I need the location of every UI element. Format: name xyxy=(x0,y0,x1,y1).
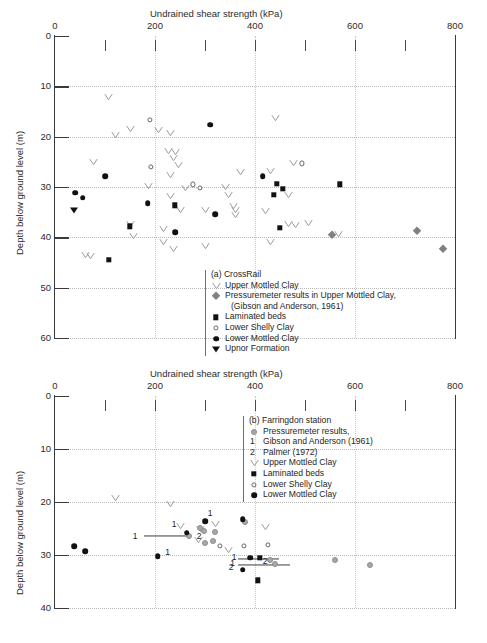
point-annotation: 1 xyxy=(133,531,138,541)
marker-vee xyxy=(224,191,232,198)
marker-vee xyxy=(104,94,112,101)
marker-vee xyxy=(221,184,229,191)
x-tick-label: 800 xyxy=(445,380,465,391)
right-axis-line xyxy=(455,35,456,339)
legend-symbol xyxy=(209,311,223,322)
legend-number: 2 xyxy=(250,447,255,458)
marker-diamond-grey xyxy=(412,227,421,236)
marker-diamond-grey xyxy=(327,231,336,240)
marker-vee xyxy=(144,182,152,189)
x-axis-tick xyxy=(405,40,406,51)
marker-square-filled xyxy=(127,224,132,229)
marker-square-filled xyxy=(280,186,285,191)
marker-vee xyxy=(111,495,119,502)
marker-circle-open xyxy=(148,164,153,169)
marker-circle-filled xyxy=(260,173,266,179)
x-axis-tick xyxy=(355,40,356,51)
legend-symbol xyxy=(247,479,261,490)
marker-circle-filled xyxy=(71,543,77,549)
marker-circle-grey xyxy=(201,528,207,534)
marker-circle-filled xyxy=(207,122,213,128)
marker-circle-filled xyxy=(172,230,178,236)
y-tick-label: 10 xyxy=(25,80,51,91)
legend-number: 1 xyxy=(250,436,255,447)
x-tick-label: 0 xyxy=(45,20,65,31)
y-tick-label: 10 xyxy=(25,443,51,454)
marker-vee xyxy=(266,167,274,174)
legend-label: Lower Shelly Clay xyxy=(225,322,294,333)
legend-label: Laminated beds xyxy=(225,311,286,322)
marker-circle-filled xyxy=(213,336,219,342)
marker-vee xyxy=(166,501,174,508)
marker-circle-grey xyxy=(212,529,218,535)
y-axis-tick xyxy=(55,288,69,289)
marker-vee xyxy=(201,206,209,213)
point-annotation: 2 xyxy=(263,556,268,566)
legend-symbol xyxy=(209,333,223,344)
marker-circle-grey xyxy=(210,538,216,544)
marker-vee xyxy=(154,126,162,133)
chart-panel-b: Undrained shear strength (kPa) Depth bel… xyxy=(0,360,487,643)
legend-label: Palmer (1972) xyxy=(263,447,317,458)
panel-a-x-axis-title: Undrained shear strength (kPa) xyxy=(150,8,283,19)
x-axis-tick xyxy=(155,400,156,411)
marker-vee xyxy=(174,161,182,168)
y-axis-tick xyxy=(55,137,69,138)
marker-vee xyxy=(169,154,177,161)
marker-vee xyxy=(224,546,232,553)
marker-circle-open xyxy=(241,543,246,548)
marker-square-filled xyxy=(337,182,342,187)
marker-circle-filled xyxy=(145,200,151,206)
legend-label: Lower Mottled Clay xyxy=(263,489,337,500)
y-tick-label: 30 xyxy=(25,181,51,192)
panel-a-y-axis-title: Depth below ground level (m) xyxy=(14,131,25,255)
marker-circle-open xyxy=(299,161,304,166)
marker-vee xyxy=(271,115,279,122)
x-tick-label: 400 xyxy=(245,380,265,391)
marker-vee xyxy=(304,220,312,227)
marker-circle-filled xyxy=(247,555,253,561)
y-axis-tick xyxy=(55,555,69,556)
x-tick-label: 0 xyxy=(45,380,65,391)
marker-vee xyxy=(201,242,209,249)
legend-symbol xyxy=(247,457,261,468)
marker-circle-filled xyxy=(72,190,78,196)
marker-vee xyxy=(166,193,174,200)
marker-circle-grey xyxy=(272,561,278,567)
marker-circle-filled xyxy=(240,567,246,573)
marker-square-filled xyxy=(172,202,177,207)
y-tick-label: 40 xyxy=(25,602,51,613)
marker-vee xyxy=(166,129,174,136)
legend-divider xyxy=(205,270,206,356)
y-axis-tick xyxy=(55,86,69,87)
marker-square-filled xyxy=(213,315,218,320)
marker-square-filled xyxy=(255,578,260,583)
marker-vee xyxy=(159,238,167,245)
marker-circle-grey xyxy=(332,557,338,563)
legend-symbol: 1 xyxy=(247,436,261,447)
x-axis-tick xyxy=(105,40,106,51)
y-axis-tick xyxy=(55,36,69,37)
marker-circle-filled xyxy=(102,174,108,180)
x-axis-tick xyxy=(155,40,156,51)
marker-circle-filled xyxy=(184,530,190,536)
marker-vee xyxy=(250,460,258,467)
gridline-vertical xyxy=(155,396,156,608)
x-axis-tick xyxy=(205,400,206,411)
marker-vee xyxy=(291,221,299,228)
marker-vee xyxy=(261,523,269,530)
y-tick-label: 40 xyxy=(25,231,51,242)
marker-vee xyxy=(89,158,97,165)
marker-circle-filled xyxy=(202,518,208,524)
marker-circle-open xyxy=(265,542,270,547)
marker-vee xyxy=(211,521,219,528)
marker-vee xyxy=(289,160,297,167)
y-axis-tick xyxy=(55,396,69,397)
marker-vee xyxy=(129,233,137,240)
marker-vee xyxy=(284,191,292,198)
gridline-horizontal xyxy=(55,608,455,609)
x-tick-label: 600 xyxy=(345,20,365,31)
figure-root: Undrained shear strength (kPa) Depth bel… xyxy=(0,0,487,643)
legend-symbol xyxy=(209,301,223,312)
marker-circle-filled xyxy=(155,553,161,559)
